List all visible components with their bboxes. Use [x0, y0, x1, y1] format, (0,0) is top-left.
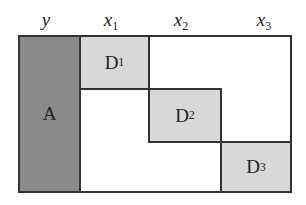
- column-label-x3: x3: [244, 9, 284, 34]
- block-sub: 2: [189, 108, 195, 123]
- label-sub: 2: [182, 19, 188, 33]
- block-sub: 3: [260, 160, 266, 175]
- label-var: y: [42, 9, 50, 30]
- block-d1: D1: [79, 35, 150, 90]
- block-a: A: [18, 35, 81, 193]
- block-label: D: [175, 105, 189, 127]
- column-label-x2: x2: [161, 9, 201, 34]
- label-var: x: [257, 9, 265, 30]
- block-sub: 1: [118, 55, 124, 70]
- column-label-y: y: [26, 9, 66, 34]
- label-var: x: [174, 9, 182, 30]
- label-var: x: [104, 9, 112, 30]
- block-label: D: [246, 156, 260, 178]
- label-sub: 1: [112, 19, 118, 33]
- label-sub: 3: [265, 19, 271, 33]
- block-label: D: [105, 52, 119, 74]
- column-label-x1: x1: [91, 9, 131, 34]
- block-label: A: [43, 103, 57, 125]
- block-d2: D2: [148, 88, 222, 143]
- block-d3: D3: [220, 141, 292, 193]
